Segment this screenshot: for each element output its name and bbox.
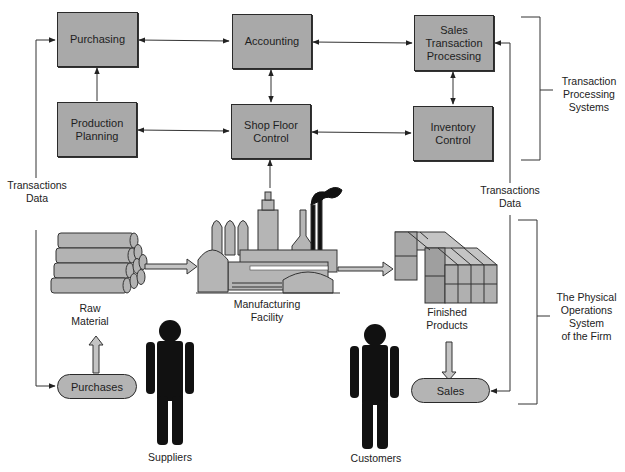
diagram-canvas: Purchasing Accounting Sales Transaction … (0, 0, 625, 472)
shop-floor-control-box: Shop Floor Control (231, 104, 311, 159)
tps-bracket (521, 17, 540, 160)
sales-transaction-processing-box: Sales Transaction Processing (414, 15, 494, 71)
production-planning-box: Production Planning (57, 102, 137, 157)
shopfloor-inventory-arrow (312, 132, 411, 133)
raw-material-icon (51, 233, 147, 293)
left-loop-upper (36, 40, 55, 178)
left-transactions-data-label: Transactions Data (2, 179, 72, 205)
suppliers-label: Suppliers (140, 451, 200, 464)
finished-products-icon (395, 232, 497, 303)
suppliers-figure-icon (146, 320, 194, 445)
manufacturing-facility-label: Manufacturing Facility (222, 298, 312, 324)
left-loop-lower (36, 230, 55, 386)
products-to-sales-arrow (442, 342, 456, 380)
purchasing-accounting-arrow (139, 40, 229, 41)
right-loop-upper (495, 43, 510, 183)
purchases-pill: Purchases (57, 374, 137, 399)
customers-figure-icon (350, 324, 399, 449)
right-transactions-data-label: Transactions Data (475, 184, 545, 210)
physical-bracket (518, 220, 537, 404)
purchases-to-raw-arrow (89, 336, 103, 373)
finished-products-label: Finished Products (412, 306, 482, 332)
facility-to-products-arrow (338, 262, 393, 276)
raw-material-label: Raw Material (60, 302, 120, 328)
connector-layer (0, 0, 625, 472)
tps-bracket-label: Transaction Processing Systems (553, 75, 625, 114)
sales-pill: Sales (411, 378, 490, 403)
accounting-box: Accounting (232, 14, 312, 69)
customers-label: Customers (343, 452, 409, 465)
accounting-sales-arrow (313, 42, 412, 43)
purchasing-box: Purchasing (57, 12, 138, 67)
raw-to-facility-arrow (145, 259, 197, 274)
inventory-control-box: Inventory Control (413, 106, 493, 161)
production-shopfloor-arrow (138, 130, 229, 131)
physical-bracket-label: The Physical Operations System of the Fi… (548, 291, 625, 343)
manufacturing-facility-icon (196, 187, 342, 293)
